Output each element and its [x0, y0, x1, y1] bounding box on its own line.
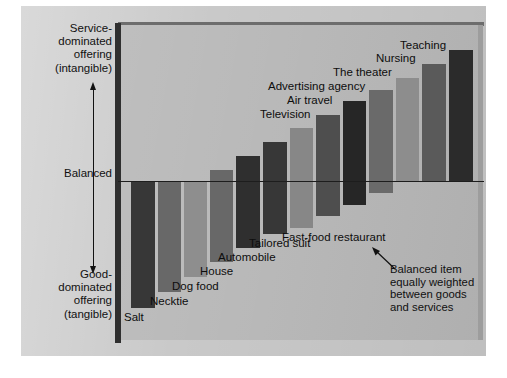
bar-label-nursing: Nursing	[376, 52, 416, 64]
bar-house	[210, 170, 233, 262]
bar-label-necktie: Necktie	[150, 295, 188, 307]
bar-teaching	[449, 50, 473, 182]
bar-label-house: House	[200, 265, 233, 277]
bar-label-teaching: Teaching	[400, 39, 446, 51]
plot-left-edge	[115, 23, 121, 343]
axis-label-balanced: Balanced	[0, 167, 112, 180]
bar-nursing	[422, 64, 446, 182]
bar-television	[316, 115, 340, 216]
axis-label-good-dominated: Good- dominated offering (tangible)	[0, 268, 112, 321]
balanced-baseline	[118, 181, 484, 182]
bar-label-dog-food: Dog food	[172, 280, 219, 292]
bar-label-television: Television	[260, 108, 311, 120]
bar-necktie	[158, 182, 181, 292]
bar-label-advertising-agency: Advertising agency	[268, 80, 365, 92]
bar-fast-food-restaurant	[290, 128, 313, 228]
bar-label-automobile: Automobile	[218, 251, 276, 263]
bar-label-air-travel: Air travel	[287, 94, 332, 106]
bar-label-fast-food-restaurant: Fast-food restaurant	[282, 231, 386, 243]
axis-label-service-dominated: Service- dominated offering (intangible)	[0, 22, 112, 75]
bar-tailored-suit	[263, 142, 287, 234]
bar-label-the-theater: The theater	[333, 66, 392, 78]
bar-label-salt: Salt	[124, 311, 144, 323]
bar-advertising-agency	[369, 90, 393, 193]
bar-air-travel	[343, 101, 366, 205]
bar-the-theater	[396, 78, 419, 182]
bar-dog-food	[184, 182, 207, 277]
chart-figure: SaltNecktieDog foodHouseAutomobileTailor…	[0, 0, 507, 378]
bar-salt	[131, 182, 155, 308]
balanced-item-annotation: Balanced item equally weighted between g…	[390, 263, 482, 313]
bar-automobile	[236, 156, 260, 248]
